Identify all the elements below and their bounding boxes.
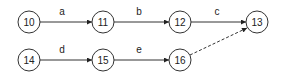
node-12: 12 xyxy=(169,11,191,33)
edge-label-e: e xyxy=(136,44,142,55)
node-label: 16 xyxy=(174,55,186,66)
edge-label-d: d xyxy=(59,44,65,55)
network-diagram: a b c d e 10 11 12 13 14 15 xyxy=(0,0,284,75)
node-16: 16 xyxy=(169,49,191,71)
node-15: 15 xyxy=(92,49,114,71)
node-label: 10 xyxy=(23,17,35,28)
edge-d: d xyxy=(40,44,92,60)
edge-e: e xyxy=(114,44,169,60)
edge-c: c xyxy=(191,6,246,22)
node-13: 13 xyxy=(246,11,268,33)
edge-a: a xyxy=(40,6,92,22)
node-14: 14 xyxy=(18,49,40,71)
edge-label-c: c xyxy=(215,6,220,17)
node-label: 11 xyxy=(98,17,109,28)
edge-label-b: b xyxy=(136,6,142,17)
node-label: 13 xyxy=(251,17,263,28)
node-label: 12 xyxy=(174,17,186,28)
edge-label-a: a xyxy=(59,6,65,17)
edge-dummy-16-13 xyxy=(190,28,247,55)
node-10: 10 xyxy=(18,11,40,33)
node-label: 14 xyxy=(23,55,35,66)
node-11: 11 xyxy=(92,11,114,33)
node-label: 15 xyxy=(97,55,109,66)
edge-b: b xyxy=(114,6,169,22)
